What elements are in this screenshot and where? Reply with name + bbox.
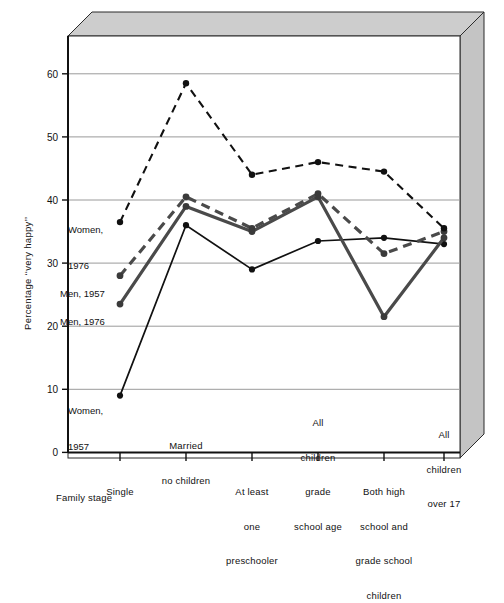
y-tick-label-40: 40 — [47, 195, 58, 206]
x-cat-5-line-2: over 17 — [427, 498, 462, 510]
x-cat-1-line-1: no children — [162, 475, 211, 487]
y-tick-label-30: 30 — [47, 258, 58, 269]
x-category-label-both-high-school-and-grade-school-children: Both high school and grade school childr… — [356, 463, 413, 603]
y-tick-label-50: 50 — [47, 131, 58, 142]
y-axis-title: Percentage ‘‘very happy’’ — [22, 217, 33, 330]
x-category-label-married-no-children: Married no children — [162, 417, 211, 509]
x-category-label-all-children-grade-school-age: All children grade school age — [294, 394, 342, 555]
x-cat-3-line-0: All — [294, 417, 342, 429]
series-women-1976-markers — [117, 80, 447, 231]
x-cat-3-line-2: grade — [294, 486, 342, 498]
series-women-1976 — [117, 80, 447, 231]
x-cat-2-line-1: one — [226, 521, 278, 533]
x-cat-4-line-3: children — [356, 590, 413, 602]
x-axis-title: Family stage — [56, 492, 112, 504]
x-cat-2-line-0: At least — [226, 486, 278, 498]
gridlines — [68, 74, 460, 390]
y-tick-label-10: 10 — [47, 384, 58, 395]
x-cat-5-line-0: All — [427, 429, 462, 441]
x-cat-4-line-0: Both high — [356, 486, 413, 498]
x-cat-3-line-1: children — [294, 452, 342, 464]
annotation-men-1976-line1: Men, 1976 — [60, 316, 105, 328]
annotation-women-1957-line1: Women, — [68, 405, 103, 417]
x-cat-1-line-0: Married — [162, 440, 211, 452]
y-tick-label-20: 20 — [47, 321, 58, 332]
x-cat-4-line-1: school and — [356, 521, 413, 533]
annotation-women-1957-line2: 1957 — [68, 441, 103, 453]
annotation-women-1976-line1: Women, — [68, 224, 103, 236]
y-tick-label-0: 0 — [52, 447, 58, 458]
x-category-label-at-least-one-preschooler: At least one preschooler — [226, 463, 278, 590]
x-cat-5-line-1: children — [427, 464, 462, 476]
series-women-1957 — [117, 222, 447, 399]
axes — [68, 36, 460, 452]
x-cat-4-line-2: grade school — [356, 555, 413, 567]
series-women-1976-line — [120, 83, 444, 228]
x-category-label-all-children-over-17: All children over 17 — [427, 406, 462, 533]
x-cat-2-line-2: preschooler — [226, 555, 278, 567]
series-annotation-men-1976: Men, 1976 — [60, 292, 105, 352]
y-tick-label-60: 60 — [47, 68, 58, 79]
x-cat-3-line-3: school age — [294, 521, 342, 533]
series-women-1957-markers — [117, 222, 447, 399]
series-annotation-women-1957: Women, 1957 — [68, 381, 103, 477]
